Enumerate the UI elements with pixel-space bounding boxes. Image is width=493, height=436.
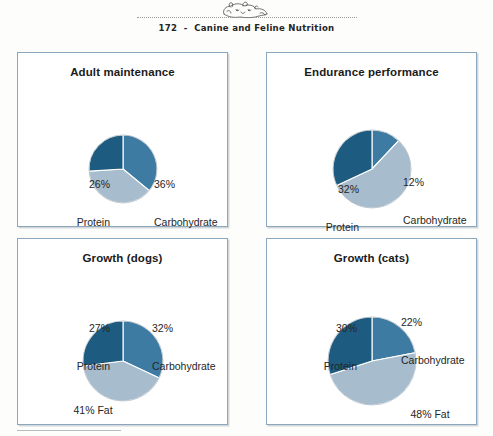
slice-name-carbohydrate: Carbohydrate: [401, 354, 477, 367]
chart-panel-endurance-performance: Endurance performance 32% Protein 12% Ca…: [266, 52, 477, 227]
running-header: 172 - Canine and Feline Nutrition: [0, 0, 493, 44]
page-bottom-rule: [17, 430, 121, 431]
slice-label-carbohydrate: 32% Carbohydrate: [152, 297, 228, 397]
chart-panel-growth-dogs: Growth (dogs) 27% Protein 32% Carbohydra…: [17, 238, 228, 425]
page-canvas: 172 - Canine and Feline Nutrition Adult …: [0, 0, 493, 436]
slice-name-protein: Protein: [299, 360, 357, 373]
slice-pct-protein: 32%: [303, 183, 359, 196]
slice-pct-fat: 41%: [74, 404, 95, 416]
slice-name-fat: Fat: [97, 404, 112, 416]
slice-pct-carbohydrate: 12%: [403, 176, 479, 189]
slice-pct-protein: 26%: [54, 178, 110, 191]
slice-name-carbohydrate: Carbohydrate: [152, 360, 228, 373]
slice-label-protein: 30% Protein: [299, 297, 357, 397]
slice-label-carbohydrate: 22% Carbohydrate: [401, 291, 477, 391]
page-header-title: 172 - Canine and Feline Nutrition: [0, 22, 493, 33]
slice-label-fat: 41% Fat: [56, 391, 132, 429]
slice-label-fat: 48% Fat: [393, 395, 473, 433]
slice-pct-carbohydrate: 36%: [154, 178, 230, 191]
slice-name-protein: Protein: [303, 221, 359, 234]
header-divider-rule: [137, 17, 357, 18]
slice-pct-carbohydrate: 32%: [152, 322, 228, 335]
slice-name-fat: Fat: [434, 408, 449, 420]
slice-name-protein: Protein: [54, 216, 110, 229]
slice-name-carbohydrate: Carbohydrate: [403, 214, 479, 227]
slice-label-protein: 27% Protein: [54, 297, 110, 397]
slice-pct-protein: 30%: [299, 322, 357, 335]
slice-label-carbohydrate: 12% Carbohydrate: [403, 151, 479, 251]
slice-pct-carbohydrate: 22%: [401, 316, 477, 329]
chart-panel-adult-maintenance: Adult maintenance 26% Protein 36% Carboh…: [17, 52, 228, 227]
chart-panel-growth-cats: Growth (cats) 30% Protein 22% Carbohydra…: [266, 238, 477, 425]
slice-name-carbohydrate: Carbohydrate: [154, 216, 230, 229]
slice-name-protein: Protein: [54, 360, 110, 373]
slice-pct-protein: 27%: [54, 322, 110, 335]
slice-pct-fat: 48%: [411, 408, 432, 420]
